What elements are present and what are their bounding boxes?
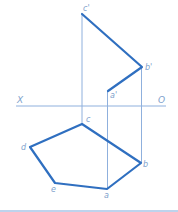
label-e: e — [51, 185, 56, 194]
label-a-prime: a' — [110, 91, 117, 100]
label-b-prime: b' — [145, 63, 152, 72]
projection-diagram: c' b' a' X O c b a e d — [0, 0, 178, 212]
label-b: b — [143, 160, 148, 169]
label-d: d — [21, 143, 27, 152]
label-a: a — [104, 191, 109, 200]
label-c: c — [86, 115, 91, 124]
label-o-axis: O — [158, 95, 165, 105]
top-view-pentagon — [30, 124, 141, 189]
label-x-axis: X — [16, 95, 24, 105]
front-view-polyline — [82, 14, 142, 91]
label-c-prime: c' — [83, 4, 90, 13]
